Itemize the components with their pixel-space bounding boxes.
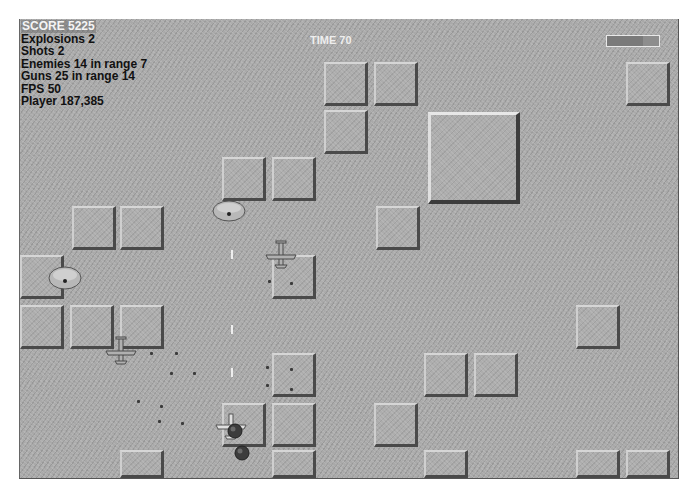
health-bar-fill [607, 36, 643, 46]
gun-turret-icon [212, 200, 246, 222]
terrain-block [374, 62, 418, 106]
hud-stats: SCORE 5225 Explosions 2 Shots 2 Enemies … [21, 20, 147, 108]
debris [160, 405, 163, 408]
terrain-block [576, 450, 620, 478]
terrain-block [474, 353, 518, 397]
player-position: Player 187,385 [21, 95, 147, 108]
terrain-block [324, 110, 368, 154]
debris [268, 280, 271, 283]
terrain-block [376, 206, 420, 250]
bomb-icon [234, 445, 250, 461]
bomb-icon [227, 423, 243, 439]
terrain-block [72, 206, 116, 250]
debris [175, 352, 178, 355]
terrain-block [324, 62, 368, 106]
debris [290, 388, 293, 391]
terrain-block [272, 450, 316, 478]
terrain-block [272, 353, 316, 397]
debris [266, 384, 269, 387]
debris [150, 352, 153, 355]
terrain-block [120, 450, 164, 478]
terrain-block [120, 206, 164, 250]
terrain-block [272, 403, 316, 447]
terrain-block [576, 305, 620, 349]
timer-display: TIME 70 [310, 34, 352, 46]
terrain-block [20, 305, 64, 349]
bullet [231, 325, 233, 334]
bullet [231, 368, 233, 377]
terrain-block [424, 353, 468, 397]
enemy-plane-icon [104, 336, 138, 366]
terrain-block-large [428, 112, 520, 204]
terrain-block [374, 403, 418, 447]
bullet [231, 250, 233, 259]
shots-counter: Shots 2 [21, 45, 147, 58]
debris [266, 366, 269, 369]
debris [290, 368, 293, 371]
gun-turret-icon [48, 266, 82, 290]
enemy-plane-icon [264, 240, 298, 270]
debris [181, 422, 184, 425]
score-display: SCORE 5225 [21, 20, 96, 33]
debris [290, 282, 293, 285]
debris [170, 372, 173, 375]
guns-counter: Guns 25 in range 14 [21, 70, 147, 83]
terrain-block [272, 157, 316, 201]
debris [193, 372, 196, 375]
terrain-block [222, 157, 266, 201]
terrain-block [626, 62, 670, 106]
health-bar [606, 35, 660, 47]
debris [137, 400, 140, 403]
debris [158, 420, 161, 423]
terrain-block [424, 450, 468, 478]
terrain-block [626, 450, 670, 478]
